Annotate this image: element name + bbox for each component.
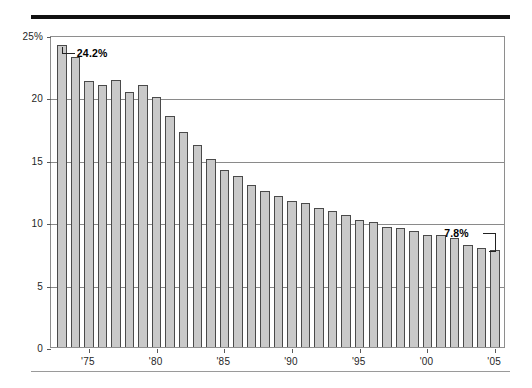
bar-1999: [409, 231, 418, 347]
x-axis-labels: '75'80'85'90'95'00'05: [50, 350, 505, 370]
x-tick-label-1975: '75: [81, 356, 95, 367]
y-tick-mark-10: [47, 224, 51, 225]
bar-1973: [57, 45, 66, 347]
bar-2004: [477, 248, 486, 347]
x-tick-label-1990: '90: [284, 356, 298, 367]
x-tick-label-1995: '95: [352, 356, 366, 367]
bar-2000: [423, 235, 432, 347]
leader-line-last-base: [489, 251, 495, 252]
bar-1975: [84, 81, 93, 347]
chart-figure: 25%20151050 '75'80'85'90'95'00'05 24.2% …: [0, 0, 532, 388]
bar-1993: [328, 211, 337, 347]
y-tick-mark-25: [47, 37, 51, 38]
bar-1987: [247, 185, 256, 347]
bar-2001: [436, 235, 445, 347]
y-axis-labels: 25%20151050: [0, 0, 50, 388]
bar-1994: [341, 215, 350, 347]
y-tick-label-15: 15: [31, 155, 43, 166]
y-tick-label-5: 5: [37, 280, 43, 291]
bar-1992: [314, 208, 323, 347]
top-rule: [31, 15, 510, 19]
annotation-first-bar: 24.2%: [77, 47, 108, 59]
bar-1996: [369, 222, 378, 347]
bar-1978: [125, 92, 134, 347]
bar-1990: [287, 201, 296, 347]
y-tick-mark-20: [47, 99, 51, 100]
bar-1989: [274, 196, 283, 347]
bar-1981: [165, 116, 174, 347]
bar-1991: [301, 203, 310, 347]
bar-1977: [111, 80, 120, 347]
x-tick-label-1985: '85: [217, 356, 231, 367]
x-tick-label-2000: '00: [420, 356, 434, 367]
bar-1984: [206, 159, 215, 347]
bottom-rule: [31, 371, 510, 372]
annotation-last-bar: 7.8%: [444, 227, 469, 239]
bar-2002: [450, 238, 459, 347]
bar-1998: [396, 228, 405, 347]
leader-line-last-v: [495, 233, 496, 252]
bar-series: [51, 37, 504, 347]
leader-line-last-h: [483, 233, 495, 234]
y-tick-mark-15: [47, 162, 51, 163]
x-tick-label-2005: '05: [487, 356, 501, 367]
bar-1982: [179, 132, 188, 347]
bar-1976: [98, 85, 107, 347]
bar-2005: [490, 250, 499, 347]
y-tick-label-20: 20: [31, 93, 43, 104]
bar-1983: [193, 145, 202, 347]
plot-area: [50, 36, 505, 348]
bar-1974: [71, 57, 80, 347]
bar-1979: [138, 85, 147, 347]
y-tick-label-10: 10: [31, 218, 43, 229]
y-tick-label-25: 25%: [22, 31, 43, 42]
bar-1997: [382, 227, 391, 347]
leader-line-first-v: [62, 47, 63, 53]
bar-1988: [260, 191, 269, 347]
y-tick-label-0: 0: [37, 343, 43, 354]
bar-1986: [233, 176, 242, 347]
bar-1980: [152, 97, 161, 347]
y-tick-mark-5: [47, 287, 51, 288]
leader-line-first-h: [62, 53, 75, 54]
bar-2003: [463, 245, 472, 347]
bar-1995: [355, 220, 364, 347]
x-tick-label-1980: '80: [149, 356, 163, 367]
bar-1985: [220, 170, 229, 347]
